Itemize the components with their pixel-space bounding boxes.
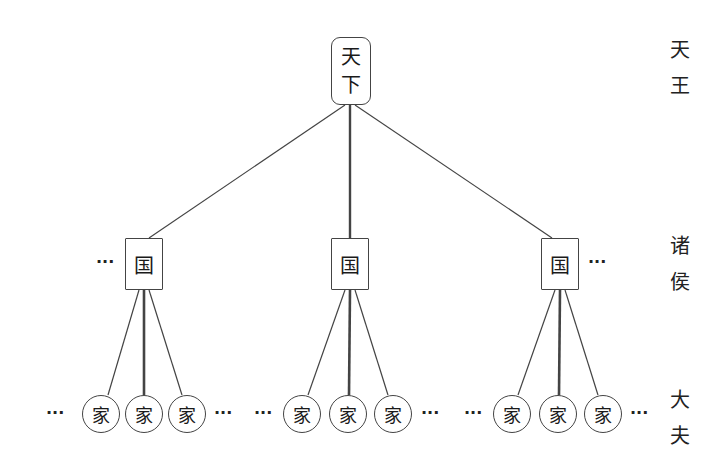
family-label: 家 [594, 401, 612, 427]
state-node-3: 国 [541, 238, 579, 290]
family-node: 家 [168, 395, 206, 433]
level-label-char: 夫 [670, 418, 690, 454]
family-label: 家 [339, 401, 357, 427]
family-node: 家 [329, 395, 367, 433]
level-label-zhuhou: 诸 侯 [670, 228, 690, 300]
level-label-char: 天 [670, 32, 690, 68]
level-label-char: 王 [670, 68, 690, 104]
family-ellipsis: ··· [464, 403, 482, 422]
family-ellipsis: ··· [214, 403, 232, 422]
level-label-dafu: 大 夫 [670, 382, 690, 454]
state-label: 国 [134, 250, 154, 279]
family-node: 家 [493, 395, 531, 433]
family-node: 家 [125, 395, 163, 433]
family-label: 家 [92, 401, 110, 427]
state-label: 国 [550, 250, 570, 279]
family-node: 家 [82, 395, 120, 433]
family-label: 家 [549, 401, 567, 427]
state-label: 国 [340, 250, 360, 279]
level-label-char: 诸 [670, 228, 690, 264]
family-ellipsis: ··· [254, 403, 272, 422]
level-label-tianwang: 天 王 [670, 32, 690, 104]
family-ellipsis: ··· [46, 403, 64, 422]
family-label: 家 [384, 401, 402, 427]
family-label: 家 [135, 401, 153, 427]
state-node-1: 国 [125, 238, 163, 290]
family-node: 家 [584, 395, 622, 433]
family-label: 家 [178, 401, 196, 427]
family-label: 家 [293, 401, 311, 427]
family-ellipsis: ··· [630, 403, 648, 422]
family-label: 家 [503, 401, 521, 427]
level-label-char: 大 [670, 382, 690, 418]
state-left-ellipsis: ··· [96, 252, 114, 271]
state-right-ellipsis: ··· [588, 252, 606, 271]
root-node-tianxia: 天 下 [331, 37, 371, 105]
state-node-2: 国 [331, 238, 369, 290]
family-node: 家 [539, 395, 577, 433]
root-line-2: 下 [341, 71, 361, 99]
family-ellipsis: ··· [421, 403, 439, 422]
family-node: 家 [374, 395, 412, 433]
level-label-char: 侯 [670, 264, 690, 300]
family-node: 家 [283, 395, 321, 433]
root-line-1: 天 [341, 43, 361, 71]
